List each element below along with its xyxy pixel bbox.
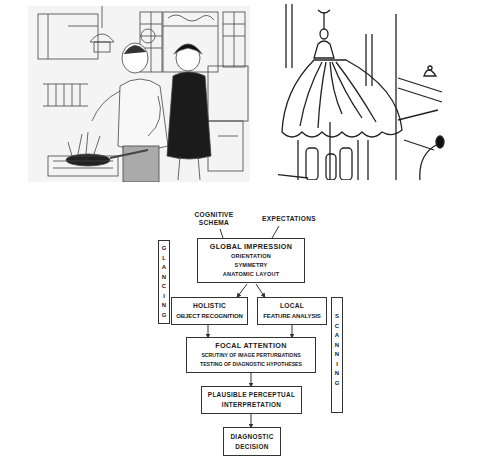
glancing-letter: N xyxy=(162,301,166,311)
local-line-1: LOCAL xyxy=(280,301,304,311)
global-impression-item: ANATOMIC LAYOUT xyxy=(223,270,280,279)
global-impression-item: ORIENTATION xyxy=(231,252,271,261)
glancing-letter: L xyxy=(162,254,166,264)
glancing-letter: G xyxy=(162,244,167,254)
holistic-line-1: HOLISTIC xyxy=(193,301,226,311)
glancing-letter: C xyxy=(162,282,166,292)
cognitive-schema-label: COGNITIVE SCHEMA xyxy=(186,211,242,227)
focal-attention-item: SCRUTINY OF IMAGE PERTURBATIONS xyxy=(201,351,300,360)
scanning-letter: N xyxy=(335,350,339,360)
decision-line-2: DECISION xyxy=(235,442,268,452)
local-feature-analysis-box: LOCAL FEATURE ANALYSIS xyxy=(257,297,327,325)
plausible-line-1: PLAUSIBLE PERCEPTUAL xyxy=(208,390,295,400)
scanning-letter: S xyxy=(335,312,339,322)
cognitive-schema-line-2: SCHEMA xyxy=(186,219,242,227)
cognitive-schema-line-1: COGNITIVE xyxy=(186,211,242,219)
plausible-line-2: INTERPRETATION xyxy=(222,400,281,410)
scanning-letter: N xyxy=(335,341,339,351)
scanning-side-label: S C A N N I N G xyxy=(331,297,343,413)
global-impression-item: SYMMETRY xyxy=(234,261,267,270)
glancing-letter: N xyxy=(162,273,166,283)
focal-attention-box: FOCAL ATTENTION SCRUTINY OF IMAGE PERTUR… xyxy=(186,337,316,373)
focal-attention-title: FOCAL ATTENTION xyxy=(215,341,286,351)
glancing-letter: A xyxy=(162,263,166,273)
scanning-letter: N xyxy=(335,369,339,379)
expectations-text: EXPECTATIONS xyxy=(258,215,320,223)
glancing-letter: I xyxy=(163,292,165,302)
decision-line-1: DIAGNOSTIC xyxy=(230,432,273,442)
glancing-side-label: G L A N C I N G xyxy=(158,240,170,324)
holistic-line-2: OBJECT RECOGNITION xyxy=(176,311,243,321)
focal-attention-item: TESTING OF DIAGNOSTIC HYPOTHESES xyxy=(200,360,302,369)
scanning-letter: A xyxy=(335,331,339,341)
global-impression-box: GLOBAL IMPRESSION ORIENTATION SYMMETRY A… xyxy=(197,238,305,283)
global-impression-title: GLOBAL IMPRESSION xyxy=(210,242,292,252)
scanning-letter: C xyxy=(335,322,339,332)
expectations-label: EXPECTATIONS xyxy=(258,215,320,223)
plausible-interpretation-box: PLAUSIBLE PERCEPTUAL INTERPRETATION xyxy=(201,386,302,414)
diagnostic-decision-box: DIAGNOSTIC DECISION xyxy=(223,427,281,456)
scanning-letter: I xyxy=(336,360,338,370)
glancing-letter: G xyxy=(162,311,167,321)
holistic-object-recognition-box: HOLISTIC OBJECT RECOGNITION xyxy=(171,297,248,325)
scanning-letter: G xyxy=(335,379,340,389)
local-line-2: FEATURE ANALYSIS xyxy=(263,311,321,321)
